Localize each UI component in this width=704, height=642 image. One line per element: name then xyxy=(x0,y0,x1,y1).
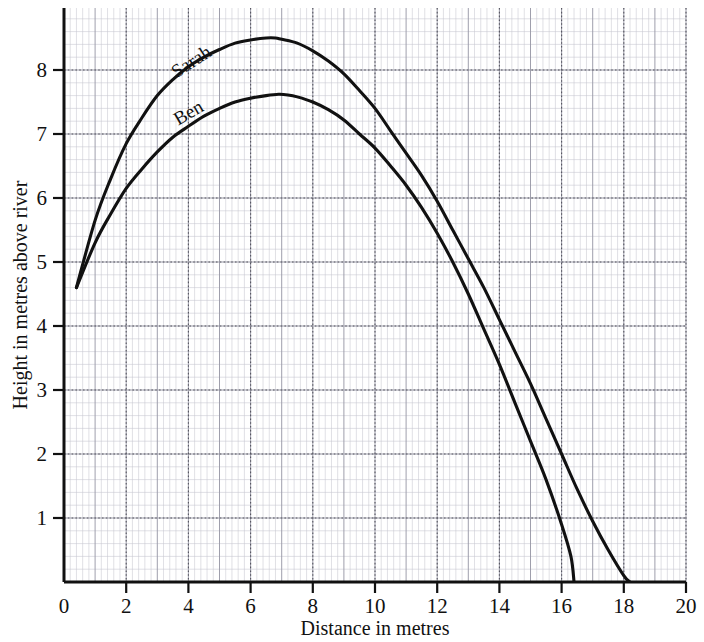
y-tick-label: 1 xyxy=(37,506,48,530)
curve-sarah xyxy=(76,38,630,582)
x-tick-label: 0 xyxy=(59,594,70,618)
series-label-ben: Ben xyxy=(170,95,207,129)
x-tick-label: 14 xyxy=(489,594,511,618)
x-tick-label: 10 xyxy=(365,594,386,618)
x-tick-label: 6 xyxy=(245,594,256,618)
y-tick-labels: 12345678 xyxy=(37,58,48,530)
chart-container: 02468101214161820 12345678 SarahBen Dist… xyxy=(0,0,704,642)
x-tick-label: 8 xyxy=(308,594,319,618)
x-tick-label: 12 xyxy=(427,594,448,618)
x-tick-labels: 02468101214161820 xyxy=(59,594,697,618)
x-tick-label: 20 xyxy=(676,594,697,618)
y-tick-label: 6 xyxy=(37,186,48,210)
y-tick-label: 5 xyxy=(37,250,48,274)
y-tick-label: 2 xyxy=(37,442,48,466)
x-tick-label: 2 xyxy=(121,594,132,618)
y-tick-label: 7 xyxy=(37,122,48,146)
y-tick-label: 8 xyxy=(37,58,48,82)
y-axis-title: Height in metres above river xyxy=(9,180,32,409)
y-tick-label: 3 xyxy=(37,378,48,402)
x-axis-title: Distance in metres xyxy=(301,617,450,639)
series-labels: SarahBen xyxy=(167,40,215,129)
x-tick-label: 16 xyxy=(551,594,572,618)
line-chart: 02468101214161820 12345678 SarahBen Dist… xyxy=(0,0,704,642)
x-tick-label: 18 xyxy=(613,594,634,618)
x-tick-label: 4 xyxy=(183,594,194,618)
series-label-sarah: Sarah xyxy=(167,40,215,81)
data-curves xyxy=(76,38,630,582)
y-tick-label: 4 xyxy=(37,314,48,338)
